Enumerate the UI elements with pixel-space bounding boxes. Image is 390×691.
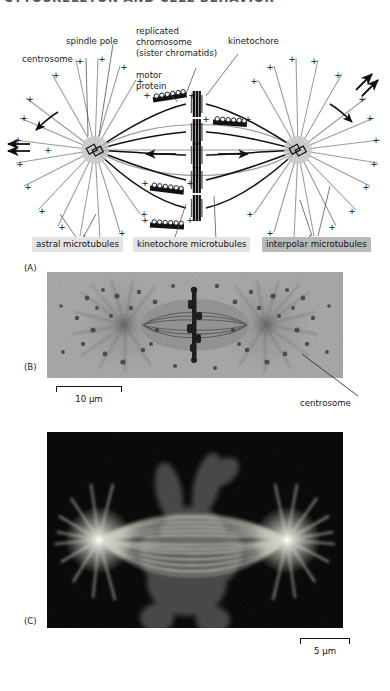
svg-text:+: +	[328, 222, 336, 232]
panel-c-scale-bar: 5 µm	[300, 638, 350, 656]
svg-text:+: +	[362, 182, 370, 192]
panel-b-callout-label: centrosome	[300, 398, 351, 409]
svg-text:+: +	[44, 145, 52, 155]
svg-text:+: +	[52, 70, 60, 80]
label-replicated-chromosome-line1: replicated	[136, 26, 179, 37]
svg-text:+: +	[98, 54, 106, 64]
svg-text:+: +	[20, 113, 28, 123]
svg-text:+: +	[202, 114, 210, 124]
panel-b-callout-leader	[300, 352, 370, 404]
figure-page: CYTOSKELETON AND CELL BEHAVIOR	[0, 0, 390, 691]
svg-text:+: +	[16, 159, 24, 169]
label-motor-protein-line1: motor	[136, 70, 162, 81]
label-kinetochore: kinetochore	[228, 36, 279, 47]
chip-kinetochore-microtubules: kinetochore microtubules	[133, 237, 250, 252]
centrosome-right	[284, 136, 312, 164]
svg-text:+: +	[334, 70, 342, 80]
svg-text:+: +	[186, 178, 194, 188]
panel-b-letter: (B)	[24, 362, 37, 372]
astral-microtubules-left	[14, 58, 140, 239]
svg-text:+: +	[143, 90, 151, 100]
svg-text:+: +	[370, 159, 378, 169]
svg-text:+: +	[120, 62, 128, 72]
svg-text:+: +	[24, 182, 32, 192]
panel-b-scale-label: 10 µm	[56, 394, 122, 404]
running-head: CYTOSKELETON AND CELL BEHAVIOR	[0, 0, 390, 7]
panel-a-letter: (A)	[24, 263, 37, 273]
fluorescence-image	[47, 432, 343, 628]
svg-text:+: +	[372, 135, 380, 145]
centrosome-left	[81, 136, 109, 164]
svg-text:+: +	[366, 113, 374, 123]
label-centrosome: centrosome	[22, 54, 73, 65]
svg-text:+: +	[246, 209, 254, 219]
panel-c-scale-label: 5 µm	[300, 646, 350, 656]
chip-interpolar-microtubules: interpolar microtubules	[262, 237, 371, 252]
svg-text:+: +	[58, 222, 66, 232]
label-motor-protein-line2: protein	[136, 81, 167, 92]
running-head-text: CYTOSKELETON AND CELL BEHAVIOR	[4, 0, 274, 5]
phase-contrast-image	[47, 272, 343, 378]
label-replicated-chromosome-line2: chromosome	[136, 37, 192, 48]
panel-c-fluorescence	[47, 432, 343, 628]
svg-text:+: +	[288, 54, 296, 64]
svg-text:+: +	[250, 76, 258, 86]
svg-text:+: +	[141, 215, 149, 225]
label-spindle-pole: spindle pole	[66, 36, 118, 47]
replicated-chromosomes	[191, 91, 203, 221]
panel-c-letter: (C)	[24, 616, 37, 626]
panel-a-diagram: + + + + + + + + + + + + + + + + + + + +	[0, 18, 390, 258]
svg-text:+: +	[244, 114, 252, 124]
svg-text:+: +	[188, 90, 196, 100]
panel-b-micrograph	[47, 272, 343, 378]
svg-text:+: +	[348, 206, 356, 216]
svg-text:+: +	[26, 94, 34, 104]
svg-text:+: +	[38, 206, 46, 216]
panel-b-scale-bar: 10 µm	[56, 386, 122, 404]
svg-text:+: +	[186, 215, 194, 225]
svg-text:+: +	[310, 56, 318, 66]
svg-text:+: +	[76, 56, 84, 66]
chip-astral-microtubules: astral microtubules	[32, 237, 123, 252]
sliding-arrows-right	[356, 74, 378, 96]
svg-text:+: +	[266, 62, 274, 72]
svg-text:+: +	[141, 178, 149, 188]
label-replicated-chromosome-line3: (sister chromatids)	[136, 48, 217, 59]
sliding-arrows-left	[8, 144, 30, 151]
